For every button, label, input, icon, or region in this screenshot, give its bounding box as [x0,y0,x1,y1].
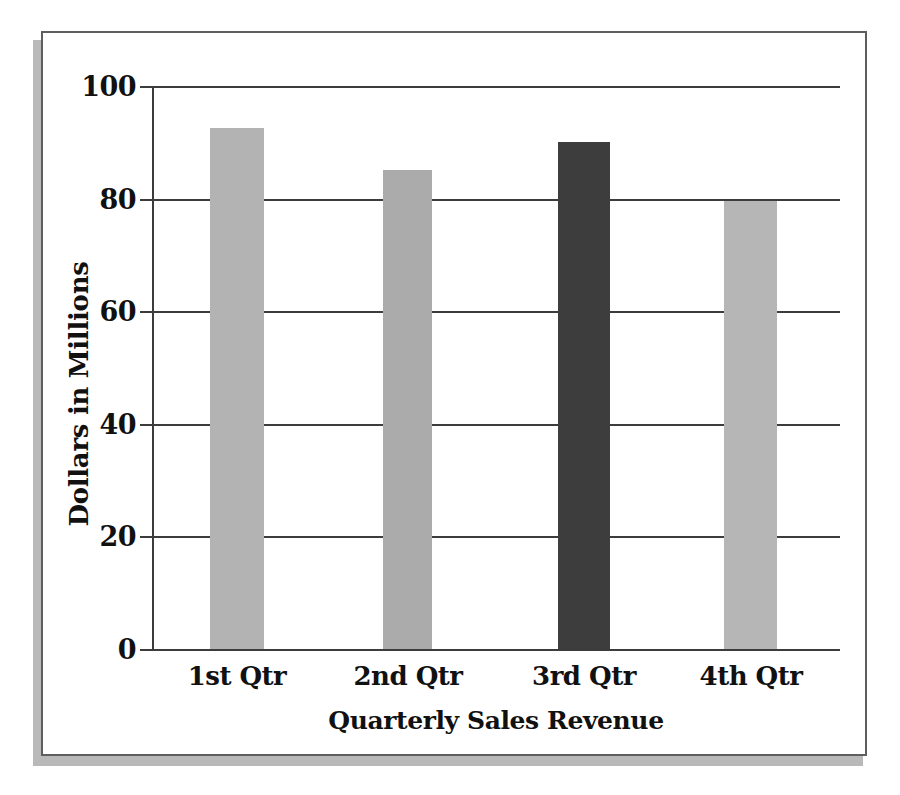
x-tick-label-3rd-qtr: 3rd Qtr [532,661,636,691]
y-tick-mark-0 [140,649,152,651]
y-tick-label-80: 80 [99,183,136,214]
y-tick-mark-80 [140,199,152,201]
bar-4th-qtr [724,201,777,649]
bar-2nd-qtr [383,170,432,649]
y-tick-mark-40 [140,424,152,426]
chart-canvas: Dollars in Millions 020406080100 1st Qtr… [43,33,865,754]
gridline-100 [152,86,840,88]
x-tick-label-1st-qtr: 1st Qtr [188,661,287,691]
gridline-0 [152,649,840,651]
y-tick-label-40: 40 [99,408,136,439]
y-axis-line [152,86,154,649]
chart-page: Dollars in Millions 020406080100 1st Qtr… [0,0,900,795]
y-axis-title: Dollars in Millions [64,261,94,526]
bar-3rd-qtr [558,142,610,649]
x-axis-title: Quarterly Sales Revenue [328,706,663,735]
y-tick-mark-60 [140,311,152,313]
bar-1st-qtr [210,128,264,649]
y-tick-label-0: 0 [118,634,136,665]
y-tick-label-20: 20 [99,521,136,552]
y-tick-mark-100 [140,86,152,88]
y-tick-label-60: 60 [99,296,136,327]
x-tick-label-4th-qtr: 4th Qtr [700,661,803,691]
plot-area: 020406080100 1st Qtr2nd Qtr3rd Qtr4th Qt… [152,86,840,649]
chart-frame: Dollars in Millions 020406080100 1st Qtr… [41,31,867,756]
y-tick-label-100: 100 [81,71,136,102]
x-tick-label-2nd-qtr: 2nd Qtr [353,661,462,691]
y-tick-mark-20 [140,536,152,538]
